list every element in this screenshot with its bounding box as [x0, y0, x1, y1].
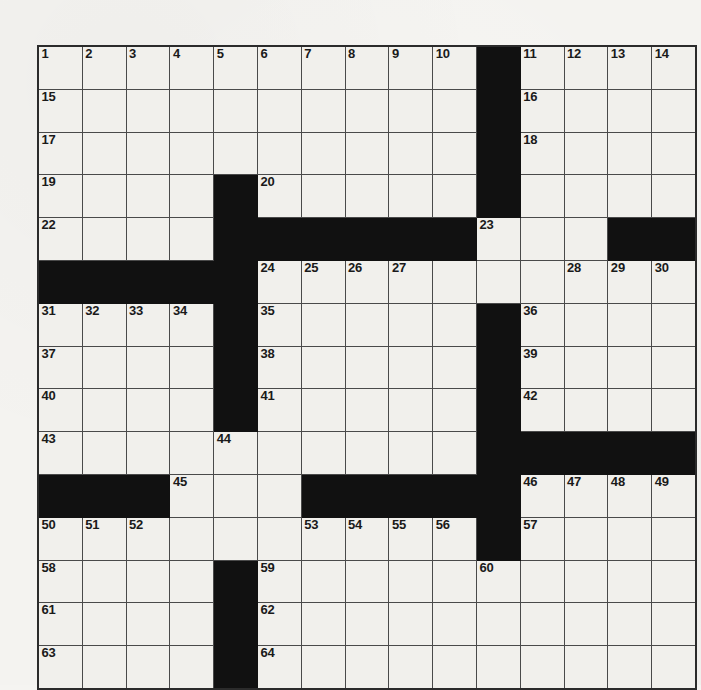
crossword-cell[interactable] [301, 303, 345, 346]
crossword-cell[interactable]: 57 [520, 517, 564, 560]
crossword-cell[interactable] [214, 89, 258, 132]
crossword-cell[interactable]: 39 [520, 346, 564, 389]
crossword-cell[interactable] [433, 89, 477, 132]
crossword-cell[interactable] [608, 646, 652, 689]
crossword-cell[interactable] [214, 474, 258, 517]
crossword-cell[interactable]: 5 [214, 46, 258, 89]
crossword-cell[interactable]: 19 [38, 175, 82, 218]
crossword-cell[interactable] [652, 389, 696, 432]
crossword-cell[interactable] [652, 175, 696, 218]
crossword-cell[interactable] [301, 346, 345, 389]
crossword-cell[interactable] [608, 517, 652, 560]
crossword-cell[interactable]: 26 [345, 260, 389, 303]
crossword-cell[interactable] [652, 646, 696, 689]
crossword-cell[interactable]: 9 [389, 46, 433, 89]
crossword-cell[interactable]: 62 [257, 603, 301, 646]
crossword-cell[interactable] [564, 175, 608, 218]
crossword-cell[interactable] [126, 89, 170, 132]
crossword-cell[interactable] [214, 132, 258, 175]
crossword-cell[interactable]: 25 [301, 260, 345, 303]
crossword-cell[interactable] [214, 517, 258, 560]
crossword-cell[interactable] [257, 132, 301, 175]
crossword-cell[interactable]: 50 [38, 517, 82, 560]
crossword-cell[interactable]: 52 [126, 517, 170, 560]
crossword-cell[interactable] [564, 132, 608, 175]
crossword-cell[interactable] [564, 346, 608, 389]
crossword-cell[interactable]: 51 [82, 517, 126, 560]
crossword-cell[interactable] [345, 646, 389, 689]
crossword-cell[interactable] [126, 560, 170, 603]
crossword-cell[interactable] [652, 132, 696, 175]
crossword-cell[interactable] [433, 389, 477, 432]
crossword-cell[interactable] [170, 218, 214, 261]
crossword-cell[interactable]: 16 [520, 89, 564, 132]
crossword-cell[interactable] [345, 175, 389, 218]
crossword-cell[interactable] [520, 175, 564, 218]
crossword-cell[interactable] [652, 346, 696, 389]
crossword-cell[interactable] [82, 389, 126, 432]
crossword-cell[interactable] [389, 346, 433, 389]
crossword-cell[interactable]: 11 [520, 46, 564, 89]
crossword-cell[interactable] [257, 89, 301, 132]
crossword-cell[interactable] [170, 560, 214, 603]
crossword-cell[interactable] [564, 89, 608, 132]
crossword-cell[interactable]: 42 [520, 389, 564, 432]
crossword-cell[interactable] [126, 389, 170, 432]
crossword-cell[interactable]: 7 [301, 46, 345, 89]
crossword-cell[interactable] [82, 346, 126, 389]
crossword-cell[interactable] [170, 389, 214, 432]
crossword-cell[interactable]: 55 [389, 517, 433, 560]
crossword-cell[interactable] [389, 389, 433, 432]
crossword-cell[interactable] [170, 432, 214, 475]
crossword-cell[interactable] [345, 603, 389, 646]
crossword-cell[interactable]: 28 [564, 260, 608, 303]
crossword-cell[interactable] [82, 646, 126, 689]
crossword-cell[interactable]: 32 [82, 303, 126, 346]
crossword-cell[interactable]: 58 [38, 560, 82, 603]
crossword-cell[interactable] [433, 132, 477, 175]
crossword-cell[interactable]: 60 [476, 560, 520, 603]
crossword-cell[interactable]: 35 [257, 303, 301, 346]
crossword-cell[interactable] [608, 132, 652, 175]
crossword-cell[interactable] [476, 603, 520, 646]
crossword-cell[interactable] [608, 89, 652, 132]
crossword-cell[interactable] [126, 646, 170, 689]
crossword-cell[interactable] [564, 389, 608, 432]
crossword-cell[interactable] [433, 603, 477, 646]
crossword-cell[interactable] [389, 132, 433, 175]
crossword-cell[interactable]: 13 [608, 46, 652, 89]
crossword-cell[interactable] [652, 560, 696, 603]
crossword-cell[interactable] [564, 603, 608, 646]
crossword-cell[interactable] [126, 218, 170, 261]
crossword-cell[interactable]: 45 [170, 474, 214, 517]
crossword-cell[interactable] [345, 560, 389, 603]
crossword-cell[interactable] [82, 560, 126, 603]
crossword-cell[interactable]: 6 [257, 46, 301, 89]
crossword-cell[interactable]: 33 [126, 303, 170, 346]
crossword-cell[interactable] [608, 560, 652, 603]
crossword-cell[interactable]: 22 [38, 218, 82, 261]
crossword-grid[interactable]: 1234567891011121314151617181920222324252… [37, 45, 697, 690]
crossword-cell[interactable] [608, 303, 652, 346]
crossword-cell[interactable]: 23 [476, 218, 520, 261]
crossword-cell[interactable] [345, 303, 389, 346]
crossword-cell[interactable]: 10 [433, 46, 477, 89]
crossword-cell[interactable]: 59 [257, 560, 301, 603]
crossword-cell[interactable] [170, 346, 214, 389]
crossword-cell[interactable] [476, 260, 520, 303]
crossword-cell[interactable] [345, 132, 389, 175]
crossword-cell[interactable]: 49 [652, 474, 696, 517]
crossword-cell[interactable]: 41 [257, 389, 301, 432]
crossword-cell[interactable]: 53 [301, 517, 345, 560]
crossword-cell[interactable] [389, 432, 433, 475]
crossword-cell[interactable]: 64 [257, 646, 301, 689]
crossword-cell[interactable] [345, 346, 389, 389]
crossword-cell[interactable] [433, 303, 477, 346]
crossword-cell[interactable] [82, 432, 126, 475]
crossword-cell[interactable] [652, 89, 696, 132]
crossword-cell[interactable] [520, 560, 564, 603]
crossword-cell[interactable] [126, 432, 170, 475]
crossword-cell[interactable]: 31 [38, 303, 82, 346]
crossword-cell[interactable] [345, 432, 389, 475]
crossword-cell[interactable] [433, 560, 477, 603]
